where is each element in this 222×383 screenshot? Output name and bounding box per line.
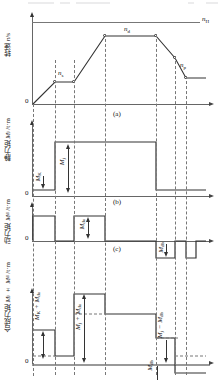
event-line <box>156 34 157 375</box>
panel-a-speed-curve <box>0 0 222 110</box>
panel-b-origin-zero: 0 <box>25 189 29 197</box>
mda-dimension-arrow-dn-icon <box>86 234 90 239</box>
panel-a-caption: (a) <box>113 110 121 118</box>
mj-mdb-dimension-line <box>166 340 167 360</box>
panel-a-origin-zero: 0 <box>25 97 29 105</box>
mdb-label: Mdb <box>158 242 165 253</box>
event-line <box>74 60 75 375</box>
mj-plus-mda-label: Mj + Mda <box>75 304 82 330</box>
mj-minus-mdb-label: Mj − Mdb <box>157 312 164 338</box>
panel-a-speed: nH ns nd np 0 (a) <box>0 0 222 105</box>
mdb-bottom-dimension-line <box>157 366 158 380</box>
panel-a-y-axis-label: 转速 n/s <box>5 33 12 57</box>
mk-mda-arrow-dn-icon <box>41 354 45 359</box>
mdb-bottom-label: Mdb <box>147 360 154 371</box>
mj-dimension-line <box>68 148 69 190</box>
mk-dimension-line <box>43 176 44 186</box>
mj-label: Mj <box>59 158 66 165</box>
panel-c-origin-zero: 0 <box>25 234 29 242</box>
figure-root: nH ns nd np 0 (a) 转速 n/s <box>0 0 222 383</box>
panel-b-y-axis-label: 静力矩 Mj /t·m <box>5 118 12 161</box>
event-line <box>175 56 176 375</box>
nd-label: nd <box>124 26 130 34</box>
panel-d-y-axis-label: 合成力矩 Mj ± Md /t·m <box>5 262 12 332</box>
ns-label: ns <box>58 70 63 78</box>
np-label: np <box>180 62 186 70</box>
event-line <box>55 60 56 375</box>
mj-mdb-arrow-dn-icon <box>164 358 168 363</box>
mk-plus-mda-label: MK + Mda <box>34 292 41 320</box>
mdb-dimension-line <box>166 244 167 253</box>
panel-c-y-axis-label: 动力矩 Md /t·m <box>5 199 12 244</box>
mj-mda-arrow-dn-icon <box>82 358 86 363</box>
event-line <box>105 34 106 375</box>
mj-mda-dimension-line <box>84 298 85 360</box>
mj-dimension-arrow-dn-icon <box>66 188 70 193</box>
event-line <box>33 104 34 376</box>
mk-mda-dimension-line <box>43 334 44 356</box>
panel-d-origin-zero: 0 <box>25 357 29 365</box>
mda-label: Mda <box>79 219 86 230</box>
panel-c-caption: (c) <box>113 245 121 253</box>
mk-label: MK <box>35 172 42 181</box>
event-line <box>186 76 187 375</box>
